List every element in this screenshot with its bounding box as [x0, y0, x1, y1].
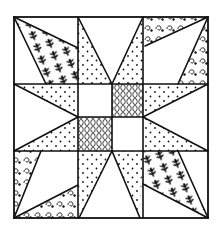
center-square-top-right	[112, 84, 143, 117]
center-square-bottom-left	[78, 117, 112, 151]
quilt-block	[0, 0, 221, 236]
